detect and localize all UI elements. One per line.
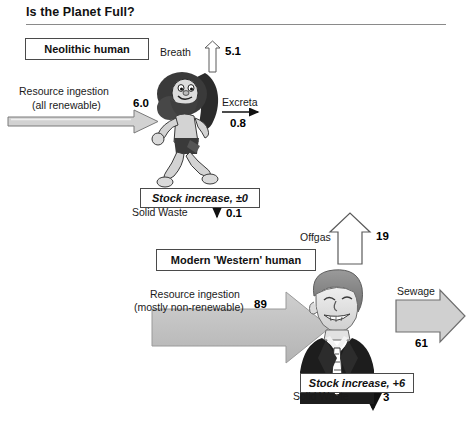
breath-value: 5.1 <box>225 45 241 57</box>
excreta-label: Excreta <box>222 96 258 108</box>
neolithic-resource-ingestion-arrow <box>8 110 158 133</box>
modern-resource-ingestion-label-line1: Resource ingestion <box>150 288 240 300</box>
modern-sewage-arrow <box>396 290 465 342</box>
modern-offgas-arrow <box>330 213 370 264</box>
diagram-page: Is the Planet Full? <box>0 0 469 424</box>
modern-resource-ingestion-value: 89 <box>254 298 267 310</box>
modern-western-human-box: Modern 'Western' human <box>156 249 316 271</box>
neolithic-resource-ingestion-label-line1: Resource ingestion <box>19 85 109 97</box>
neolithic-resource-ingestion-label-line2: (all renewable) <box>32 99 101 111</box>
modern-resource-ingestion-label-line2: (mostly non-renewable) <box>134 301 244 313</box>
title-divider <box>26 24 446 25</box>
stock-increase-neolithic-box: Stock increase, ±0 <box>140 188 260 208</box>
neolithic-breath-arrow <box>205 41 220 72</box>
neolithic-resource-ingestion-value: 6.0 <box>133 97 149 109</box>
sewage-value: 61 <box>415 337 428 349</box>
excreta-value: 0.8 <box>230 117 246 129</box>
neolithic-solid-waste-value: 0.1 <box>226 207 242 219</box>
modern-solid-waste-label: Solid Waste <box>293 390 349 402</box>
offgas-label: Offgas <box>300 231 331 243</box>
sewage-label: Sewage <box>397 285 435 297</box>
modern-solid-waste-value: 3 <box>383 391 389 403</box>
offgas-value: 19 <box>376 230 389 242</box>
neolithic-human-figure <box>152 72 218 187</box>
neolithic-solid-waste-label: Solid Waste <box>132 206 188 218</box>
page-title: Is the Planet Full? <box>26 5 135 19</box>
breath-label: Breath <box>160 46 191 58</box>
neolithic-human-box: Neolithic human <box>25 38 149 60</box>
